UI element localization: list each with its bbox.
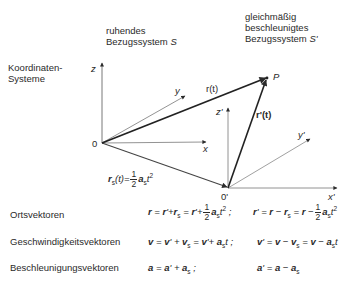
x-prime-label: x' (327, 191, 336, 202)
y-axis (102, 96, 185, 143)
r-prime-t-label: r'(t) (256, 109, 271, 120)
acceleration-formula-right: a' = a − as (257, 262, 300, 275)
z-label: z (90, 63, 96, 74)
y-prime-axis (228, 139, 310, 188)
origin-prime-label: 0' (221, 191, 228, 202)
y-prime-label: y' (297, 129, 306, 140)
velocity-formula-left: v = v' + vs = v'+ ast ; (148, 236, 233, 249)
row-label-position: Ortsvektoren (10, 209, 64, 220)
acceleration-formula-left: a = a' + as ; (148, 262, 196, 275)
y-label: y (174, 85, 181, 96)
row-label-velocity: Geschwindigkeitsvektoren (10, 236, 120, 247)
position-formula-left: r = r'+rs = r'+12ast2 ; (148, 203, 231, 222)
point-p (266, 77, 269, 80)
x-axis (102, 142, 206, 143)
r-prime-vector (228, 80, 266, 188)
point-p-label: P (273, 71, 280, 82)
position-formula-right: r' = r − rs = r −12ast2 (253, 203, 337, 222)
x-label: x (202, 143, 209, 154)
rs-formula: rs(t)=12ast2 (108, 170, 153, 189)
row-label-acceleration: Beschleunigungsvektoren (10, 262, 119, 273)
r-vector (102, 78, 266, 143)
velocity-formula-right: v' = v − vs = v − ast (257, 236, 338, 249)
z-prime-label: z' (215, 106, 224, 117)
origin-label: 0 (92, 138, 97, 149)
r-t-label: r(t) (206, 83, 218, 94)
